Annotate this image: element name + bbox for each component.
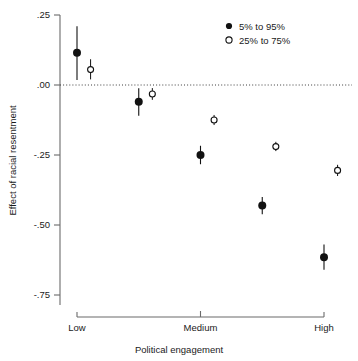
x-axis-title: Political engagement (0, 344, 358, 355)
y-tick-label: -.75 (12, 289, 50, 300)
data-point-filled (197, 151, 205, 159)
chart-background (0, 0, 358, 361)
data-point-filled (135, 98, 143, 106)
data-point-filled (320, 253, 328, 261)
x-tick-label: Medium (161, 322, 241, 333)
legend-filled-circle-icon (226, 23, 232, 29)
y-tick-label: -.50 (12, 219, 50, 230)
data-point-open (335, 167, 341, 173)
chart-canvas (0, 0, 358, 361)
y-tick-label: .00 (12, 79, 50, 90)
data-point-open (149, 91, 155, 97)
legend-label-5-to-95: 5% to 95% (239, 21, 285, 32)
y-tick-label: .25 (12, 9, 50, 20)
legend-open-circle-icon (226, 37, 232, 43)
x-tick-label: Low (37, 322, 117, 333)
x-tick-label: High (284, 322, 358, 333)
data-point-open (273, 144, 279, 150)
y-axis-title: Effect of racial resentment (7, 86, 18, 236)
y-tick-label: -.25 (12, 149, 50, 160)
data-point-filled (73, 49, 81, 57)
data-point-open (88, 67, 94, 73)
legend-label-25-to-75: 25% to 75% (239, 35, 290, 46)
data-point-open (211, 117, 217, 123)
data-point-filled (258, 201, 266, 209)
